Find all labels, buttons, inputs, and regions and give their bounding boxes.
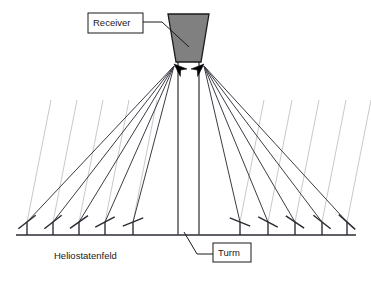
concentrated-beam (79, 66, 174, 222)
concentrated-beam (204, 66, 268, 222)
sun-ray (268, 100, 292, 222)
sun-ray (79, 100, 103, 222)
concentrated-beam (27, 66, 174, 222)
sun-ray (295, 100, 319, 222)
arrowheads-group (171, 60, 208, 76)
concentrated-beams-group (27, 66, 347, 222)
concentrated-beam (204, 66, 347, 222)
heliostat-field-group (18, 215, 355, 235)
tower-label: Turm (218, 247, 240, 258)
sun-ray (27, 100, 51, 222)
concentrated-beam (204, 66, 295, 222)
sun-ray (53, 100, 77, 222)
receiver-label: Receiver (93, 17, 131, 28)
sun-ray (347, 100, 371, 222)
sun-ray (322, 100, 346, 222)
solar-tower-diagram: Receiver Turm Heliostatenfeld (0, 0, 371, 282)
concentrated-beam (53, 66, 174, 222)
receiver-body (168, 14, 209, 62)
sun-ray (133, 100, 157, 222)
heliostat-field-label: Heliostatenfeld (54, 250, 117, 261)
